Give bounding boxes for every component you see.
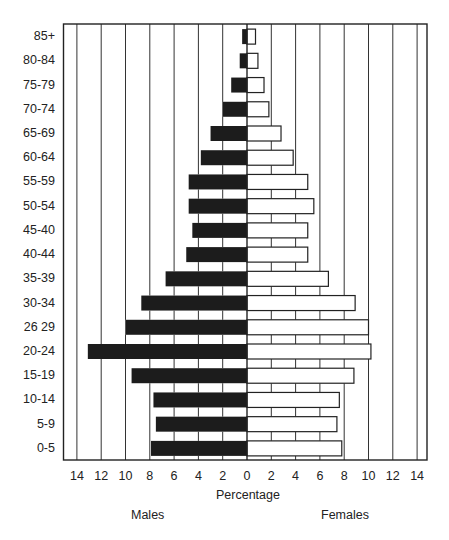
male-bar — [132, 368, 247, 383]
female-bar — [247, 78, 264, 93]
x-tick-label: 2 — [259, 469, 283, 483]
age-group-label: 30-34 — [0, 296, 55, 310]
x-tick-label: 0 — [235, 469, 259, 483]
male-bar — [231, 78, 247, 93]
female-bar — [247, 247, 308, 262]
age-group-label: 15-19 — [0, 368, 55, 382]
female-bar — [247, 223, 308, 238]
male-bar — [240, 53, 247, 68]
male-bar — [153, 392, 247, 407]
bars — [88, 29, 371, 456]
female-bar — [247, 174, 308, 189]
x-tick-label: 4 — [186, 469, 210, 483]
age-group-label: 40-44 — [0, 247, 55, 261]
x-tick-label: 10 — [357, 469, 381, 483]
male-bar — [223, 102, 247, 117]
population-pyramid-chart — [0, 0, 449, 540]
male-bar — [189, 174, 247, 189]
age-group-label: 5-9 — [0, 417, 55, 431]
age-group-label: 10-14 — [0, 392, 55, 406]
x-tick-label: 14 — [405, 469, 429, 483]
age-group-label: 65-69 — [0, 126, 55, 140]
x-tick-label: 4 — [284, 469, 308, 483]
female-bar — [247, 126, 281, 141]
x-tick-label: 6 — [308, 469, 332, 483]
x-tick-label: 2 — [211, 469, 235, 483]
x-tick-label: 8 — [332, 469, 356, 483]
female-bar — [247, 296, 355, 311]
male-bar — [186, 247, 247, 262]
female-bar — [247, 344, 371, 359]
females-label: Females — [321, 508, 369, 522]
age-group-label: 80-84 — [0, 53, 55, 67]
x-tick-label: 10 — [114, 469, 138, 483]
male-bar — [141, 296, 247, 311]
age-group-label: 50-54 — [0, 199, 55, 213]
age-group-label: 35-39 — [0, 271, 55, 285]
male-bar — [156, 417, 247, 432]
male-bar — [242, 29, 247, 44]
female-bar — [247, 53, 258, 68]
female-bar — [247, 150, 293, 165]
female-bar — [247, 368, 354, 383]
age-group-label: 85+ — [0, 29, 55, 43]
x-tick-label: 12 — [89, 469, 113, 483]
female-bar — [247, 29, 256, 44]
female-bar — [247, 441, 342, 456]
female-bar — [247, 199, 314, 214]
males-label: Males — [131, 508, 164, 522]
male-bar — [192, 223, 247, 238]
x-tick-label: 8 — [138, 469, 162, 483]
age-group-label: 45-40 — [0, 223, 55, 237]
x-tick-label: 12 — [381, 469, 405, 483]
age-group-label: 20-24 — [0, 344, 55, 358]
male-bar — [126, 320, 248, 335]
male-bar — [201, 150, 247, 165]
male-bar — [88, 344, 247, 359]
age-group-label: 70-74 — [0, 102, 55, 116]
female-bar — [247, 271, 328, 286]
male-bar — [189, 199, 247, 214]
female-bar — [247, 102, 269, 117]
x-tick-label: 6 — [162, 469, 186, 483]
age-group-label: 55-59 — [0, 174, 55, 188]
male-bar — [151, 441, 247, 456]
age-group-label: 26 29 — [0, 320, 55, 334]
male-bar — [211, 126, 247, 141]
female-bar — [247, 417, 337, 432]
female-bar — [247, 392, 339, 407]
age-group-label: 0-5 — [0, 441, 55, 455]
male-bar — [166, 271, 247, 286]
age-group-label: 75-79 — [0, 78, 55, 92]
x-tick-label: 14 — [65, 469, 89, 483]
age-group-label: 60-64 — [0, 150, 55, 164]
female-bar — [247, 320, 369, 335]
x-axis-title: Percentage — [216, 488, 280, 502]
